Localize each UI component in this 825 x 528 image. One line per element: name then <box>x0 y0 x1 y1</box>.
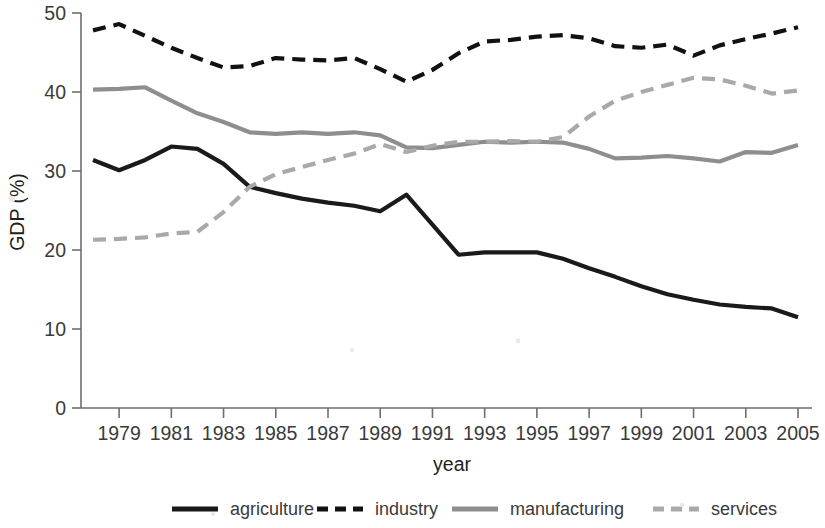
x-axis-tick-labels: 1979198119831985198719891991199319951997… <box>97 422 819 444</box>
x-tick-label: 1995 <box>515 422 559 444</box>
x-tick-label: 2001 <box>672 422 715 444</box>
x-tick-label: 1985 <box>254 422 298 444</box>
chart-canvas: 01020304050 1979198119831985198719891991… <box>0 0 825 528</box>
x-tick-label: 1999 <box>620 422 663 444</box>
y-axis-title: GDP (%) <box>6 173 28 251</box>
x-tick-label: 1979 <box>97 422 140 444</box>
legend-item-agriculture: agriculture <box>172 499 314 519</box>
legend-label-industry: industry <box>375 499 438 519</box>
legend-item-industry: industry <box>317 499 438 519</box>
y-tick-label: 30 <box>44 160 66 182</box>
scan-artifacts <box>9 196 684 516</box>
x-tick-label: 2005 <box>776 422 820 444</box>
x-tick-label: 1983 <box>202 422 245 444</box>
series-group <box>93 24 798 317</box>
y-tick-label: 40 <box>44 81 66 103</box>
y-tick-label: 10 <box>44 318 66 340</box>
y-axis-tick-marks <box>72 13 81 408</box>
series-line-industry <box>93 24 798 82</box>
legend-item-services: services <box>653 499 777 519</box>
chart-legend: agricultureindustrymanufacturingservices <box>172 499 777 519</box>
legend-label-manufacturing: manufacturing <box>510 499 624 519</box>
gdp-composition-chart: 01020304050 1979198119831985198719891991… <box>0 0 825 528</box>
x-tick-label: 1991 <box>411 422 454 444</box>
x-axis-tick-marks <box>119 408 798 418</box>
x-tick-label: 1981 <box>150 422 193 444</box>
legend-label-services: services <box>711 499 777 519</box>
x-tick-label: 2003 <box>724 422 767 444</box>
x-tick-label: 1997 <box>567 422 610 444</box>
x-tick-label: 1993 <box>463 422 506 444</box>
x-axis-title: year <box>433 453 471 475</box>
y-tick-label: 20 <box>44 239 66 261</box>
x-tick-label: 1989 <box>359 422 402 444</box>
y-axis-tick-labels: 01020304050 <box>44 2 66 419</box>
y-tick-label: 50 <box>44 2 66 24</box>
x-tick-label: 1987 <box>306 422 349 444</box>
y-tick-label: 0 <box>55 397 66 419</box>
legend-item-manufacturing: manufacturing <box>452 499 624 519</box>
legend-label-agriculture: agriculture <box>230 499 314 519</box>
